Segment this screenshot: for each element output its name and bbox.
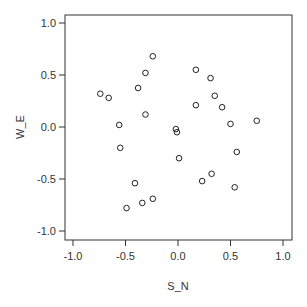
y-tick-label: -0.5	[37, 173, 56, 185]
data-point	[143, 112, 149, 118]
x-tick-label: -1.0	[64, 250, 83, 262]
y-tick-label: 0.5	[41, 69, 56, 81]
data-point	[150, 196, 156, 202]
data-point	[135, 85, 141, 91]
data-point	[132, 180, 138, 186]
x-tick-label: 1.0	[275, 250, 290, 262]
data-point	[209, 171, 215, 177]
x-axis-label: S_N	[167, 280, 188, 292]
data-points	[98, 53, 260, 210]
data-point	[143, 70, 149, 76]
data-point	[124, 205, 130, 211]
data-point	[116, 122, 122, 128]
x-axis: -1.0-0.50.00.51.0	[64, 240, 291, 262]
scatter-chart: -1.0-0.50.00.51.0 -1.0-0.50.00.51.0 S_N …	[0, 0, 307, 307]
data-point	[117, 145, 123, 151]
y-tick-label: 1.0	[41, 17, 56, 29]
data-point	[232, 185, 238, 191]
data-point	[219, 104, 225, 110]
y-axis-label: W_E	[14, 115, 26, 139]
data-point	[254, 118, 260, 124]
data-point	[228, 121, 234, 127]
y-tick-label: -1.0	[37, 225, 56, 237]
data-point	[140, 200, 146, 206]
data-point	[212, 93, 218, 99]
data-point	[193, 67, 199, 73]
x-tick-label: 0.5	[223, 250, 238, 262]
data-point	[234, 149, 240, 155]
x-tick-label: -0.5	[116, 250, 135, 262]
data-point	[208, 75, 214, 81]
y-axis: -1.0-0.50.00.51.0	[37, 17, 65, 237]
x-tick-label: 0.0	[170, 250, 185, 262]
y-tick-label: 0.0	[41, 121, 56, 133]
data-point	[98, 91, 104, 97]
data-point	[199, 178, 205, 184]
data-point	[193, 102, 199, 108]
data-point	[150, 53, 156, 59]
data-point	[176, 155, 182, 161]
data-point	[106, 95, 112, 101]
